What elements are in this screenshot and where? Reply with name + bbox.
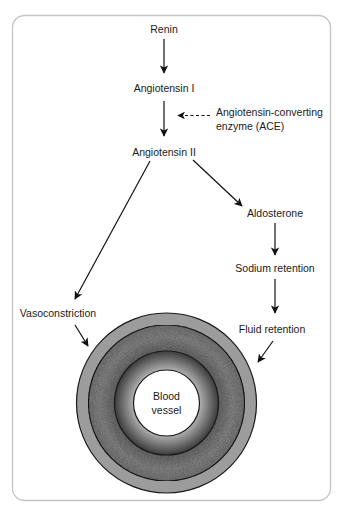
vessel-label-line2: vessel	[152, 404, 182, 416]
node-fluid-retention: Fluid retention	[239, 323, 306, 335]
node-ace-line2: enzyme (ACE)	[216, 120, 284, 132]
node-aldosterone: Aldosterone	[247, 207, 303, 219]
raas-diagram: Renin Angiotensin I Angiotensin-converti…	[0, 0, 346, 510]
vessel-label-line1: Blood	[153, 390, 180, 402]
vessel-lumen	[134, 370, 200, 436]
node-angiotensin-1: Angiotensin I	[134, 82, 195, 94]
blood-vessel-cross-section: Blood vessel	[77, 313, 257, 493]
node-vasoconstriction: Vasoconstriction	[20, 307, 96, 319]
node-angiotensin-2: Angiotensin II	[132, 146, 196, 158]
node-ace-line1: Angiotensin-converting	[216, 106, 323, 118]
node-renin: Renin	[150, 23, 178, 35]
node-sodium-retention: Sodium retention	[235, 262, 315, 274]
